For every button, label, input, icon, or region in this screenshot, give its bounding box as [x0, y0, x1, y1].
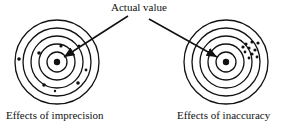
- scatter-imprecision: [17, 44, 87, 92]
- diagram: [0, 0, 288, 128]
- bullseye: [54, 59, 60, 65]
- arrow-left: [64, 16, 128, 57]
